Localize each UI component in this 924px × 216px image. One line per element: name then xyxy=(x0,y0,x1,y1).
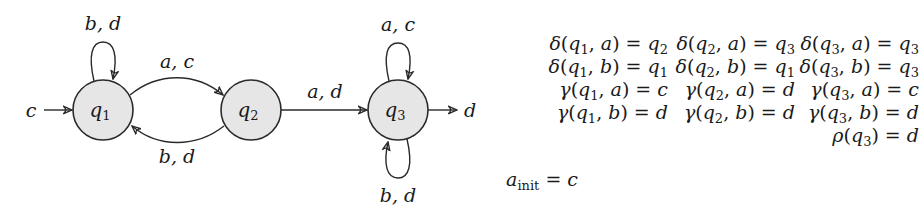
equation-a-init: ainit = c xyxy=(506,168,578,193)
equation-delta-q3-a: δ(q3, a) = q3 xyxy=(800,32,919,57)
equation-delta-q1-b: δ(q1, b) = q1 xyxy=(549,55,668,80)
edge-q2-q1 xyxy=(132,126,224,143)
equation-gamma-q3-b: γ(q3, b) = d xyxy=(808,101,919,126)
state-q1-sub: 1 xyxy=(102,108,110,123)
equations-block: δ(q1, a) = q2δ(q2, a) = q3δ(q3, a) = q3δ… xyxy=(506,32,919,193)
edge-q1-q1-label: b, d xyxy=(85,12,121,34)
equation-rho-q3: ρ(q3) = d xyxy=(831,124,919,149)
equation-delta-q2-a: δ(q2, a) = q3 xyxy=(676,32,795,57)
equation-gamma-q3-a: γ(q3, a) = c xyxy=(810,78,919,103)
edge-q2-q1-label: b, d xyxy=(159,145,195,167)
edge-q3-q3-top xyxy=(386,43,410,81)
equation-gamma-q1-b: γ(q1, b) = d xyxy=(557,101,668,126)
edge-q1-q2 xyxy=(130,78,223,95)
initial-output-label: c xyxy=(26,99,37,121)
state-q3: q3 xyxy=(368,80,428,140)
edge-q3-q3-bottom xyxy=(386,139,410,178)
edge-q3-q3-bottom-label: b, d xyxy=(380,184,416,206)
state-q1: q1 xyxy=(73,80,133,140)
edge-q1-q2-label: a, c xyxy=(160,50,194,72)
edge-q3-q3-top-label: a, c xyxy=(381,13,415,35)
final-output-label: d xyxy=(464,99,476,121)
automaton-diagram: c b, d a, c b, d a, d a, c b, d d q1 q2 … xyxy=(0,0,924,216)
equation-gamma-q1-a: γ(q1, a) = c xyxy=(559,78,668,103)
state-q2: q2 xyxy=(221,80,281,140)
state-q3-name: q xyxy=(384,98,397,122)
equation-gamma-q2-a: γ(q2, a) = d xyxy=(685,78,795,103)
equation-delta-q2-b: δ(q2, b) = q1 xyxy=(676,55,795,80)
equation-delta-q3-b: δ(q3, b) = q3 xyxy=(800,55,919,80)
equation-delta-q1-a: δ(q1, a) = q2 xyxy=(549,32,668,57)
edge-q1-q1 xyxy=(91,42,115,81)
edge-q2-q3-label: a, d xyxy=(307,80,343,102)
state-q2-name: q xyxy=(237,98,250,122)
state-q2-sub: 2 xyxy=(250,108,258,123)
state-q1-name: q xyxy=(89,98,102,122)
state-q3-sub: 3 xyxy=(397,108,405,123)
equation-gamma-q2-b: γ(q2, b) = d xyxy=(684,101,795,126)
